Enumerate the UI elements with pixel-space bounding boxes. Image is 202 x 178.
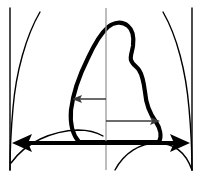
- diagram-background: [0, 0, 202, 178]
- ctr-diagram-canvas: [0, 0, 202, 178]
- cardiothoracic-ratio-diagram: [0, 0, 202, 178]
